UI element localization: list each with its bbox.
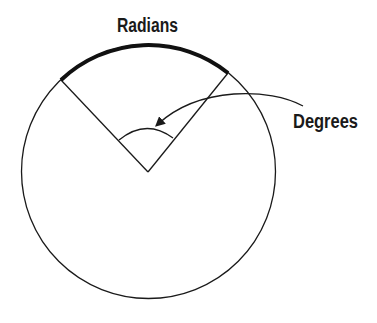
angle-arc bbox=[119, 128, 173, 140]
radians-degrees-diagram: Radians Degrees bbox=[0, 0, 377, 323]
degrees-label: Degrees bbox=[293, 110, 358, 132]
radius-left bbox=[61, 80, 148, 172]
radians-label: Radians bbox=[117, 14, 178, 36]
degrees-pointer-arrow bbox=[158, 94, 303, 124]
diagram-canvas: Radians Degrees bbox=[0, 0, 377, 323]
radians-arc bbox=[61, 45, 228, 80]
